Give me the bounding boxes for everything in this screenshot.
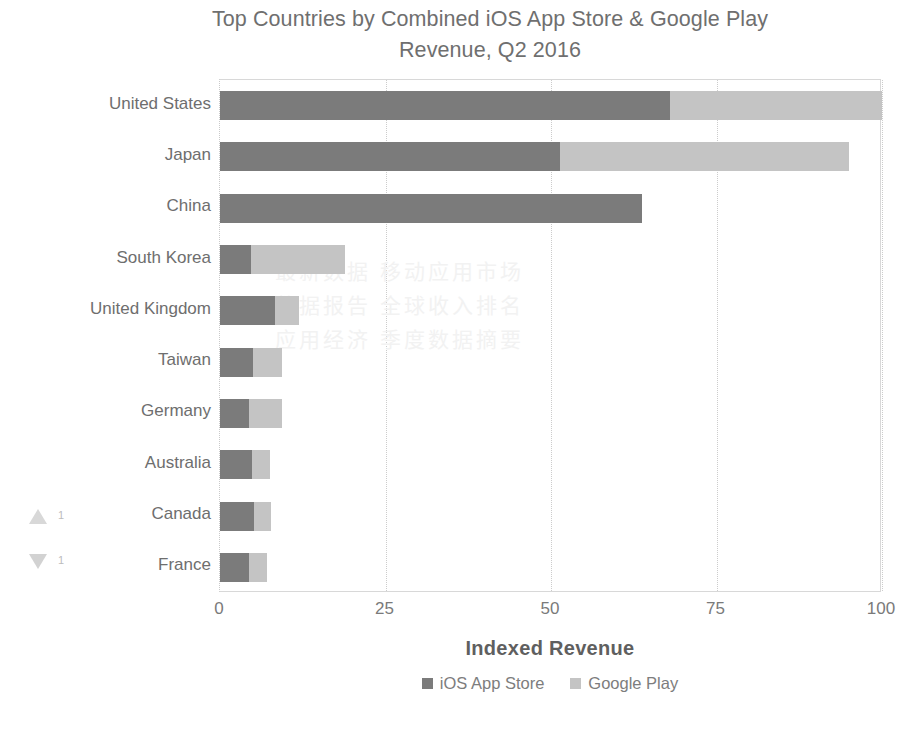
bar-segment xyxy=(220,142,560,171)
bar-segment xyxy=(220,450,252,479)
chart-title: Top Countries by Combined iOS App Store … xyxy=(120,4,860,66)
x-axis-tick-label: 50 xyxy=(541,599,560,619)
legend-swatch-icon xyxy=(422,678,433,689)
plot-area: 最新数据 移动应用市场 数据报告 全球收入排名 应用经济 季度数据摘要 xyxy=(219,79,881,592)
x-axis-title: Indexed Revenue xyxy=(219,637,881,660)
bar-segment xyxy=(249,399,282,428)
bar-segment xyxy=(253,348,282,377)
bar-row xyxy=(220,142,882,171)
bar-row xyxy=(220,194,882,223)
y-axis-label: South Korea xyxy=(11,248,211,268)
bar-segment xyxy=(220,553,249,582)
legend-label: Google Play xyxy=(588,674,678,693)
bar-row xyxy=(220,91,882,120)
legend-item[interactable]: Google Play xyxy=(570,674,678,693)
bar-segment xyxy=(220,296,275,325)
y-axis-label: Australia xyxy=(11,453,211,473)
bar-row xyxy=(220,245,882,274)
bar-segment xyxy=(670,91,882,120)
legend-label: iOS App Store xyxy=(440,674,545,693)
x-axis-tick-label: 25 xyxy=(375,599,394,619)
bar-segment xyxy=(254,502,271,531)
bar-segment xyxy=(220,245,251,274)
bar-segment xyxy=(251,245,345,274)
bar-segment xyxy=(275,296,299,325)
y-axis-label: United States xyxy=(11,94,211,114)
y-axis-label: China xyxy=(11,196,211,216)
y-axis-label: Taiwan xyxy=(11,350,211,370)
bar-segment xyxy=(220,399,249,428)
chart-container: Top Countries by Combined iOS App Store … xyxy=(0,0,922,730)
bar-row xyxy=(220,502,882,531)
chart-legend: iOS App StoreGoogle Play xyxy=(219,674,881,693)
bar-row xyxy=(220,399,882,428)
gridline xyxy=(882,80,883,591)
bar-segment xyxy=(220,348,253,377)
bar-segment xyxy=(220,502,254,531)
bar-row xyxy=(220,296,882,325)
scroll-down-arrow-icon[interactable] xyxy=(26,551,50,571)
scroll-down-count: 1 xyxy=(58,554,64,566)
bar-row xyxy=(220,553,882,582)
y-axis-label: Japan xyxy=(11,145,211,165)
bar-segment xyxy=(560,142,849,171)
bar-row xyxy=(220,348,882,377)
scroll-up-count: 1 xyxy=(58,509,64,521)
y-axis-label: Germany xyxy=(11,401,211,421)
x-axis-tick-label: 0 xyxy=(214,599,223,619)
x-axis-tick-label: 100 xyxy=(867,599,895,619)
scroll-up-arrow-icon[interactable] xyxy=(26,506,50,526)
bar-segment xyxy=(252,450,271,479)
bar-row xyxy=(220,450,882,479)
bar-segment xyxy=(220,91,670,120)
bar-segment xyxy=(249,553,267,582)
legend-item[interactable]: iOS App Store xyxy=(422,674,545,693)
x-axis-tick-label: 75 xyxy=(706,599,725,619)
y-axis-label: United Kingdom xyxy=(11,299,211,319)
bar-segment xyxy=(220,194,642,223)
legend-swatch-icon xyxy=(570,678,581,689)
